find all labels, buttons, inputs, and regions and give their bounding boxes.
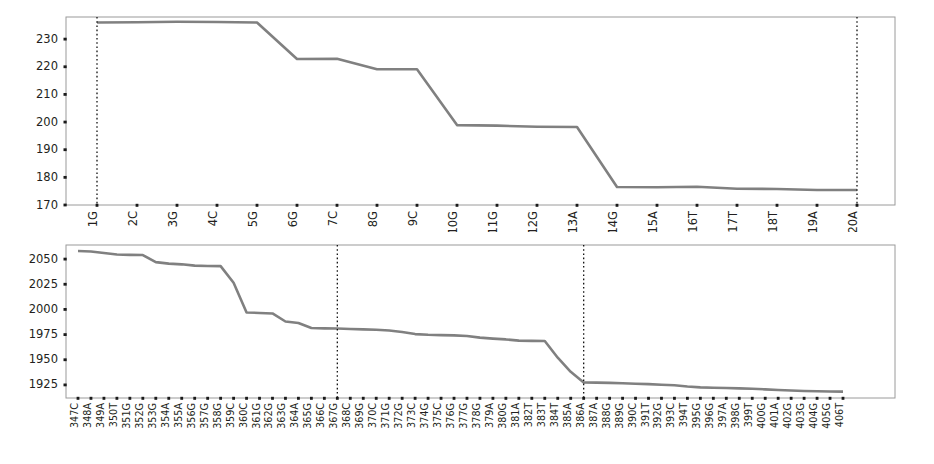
x-tick-label: 18T <box>766 210 780 232</box>
x-tick-mark <box>634 397 637 400</box>
x-tick-label: 348A <box>82 403 93 428</box>
x-tick-mark <box>764 397 767 400</box>
y-tick-mark <box>64 308 67 311</box>
x-tick-mark <box>517 397 520 400</box>
x-tick-mark <box>536 204 539 207</box>
x-tick-label: 363G <box>276 403 287 429</box>
x-tick-mark <box>90 397 93 400</box>
x-tick-mark <box>842 397 845 400</box>
x-tick-label: 374G <box>419 403 430 429</box>
x-tick-label: 376G <box>445 403 456 429</box>
x-tick-label: 356G <box>186 403 197 429</box>
y-tick-label: 2025 <box>29 277 58 291</box>
x-tick-label: 404G <box>808 403 819 429</box>
x-tick-mark <box>660 397 663 400</box>
x-tick-label: 383T <box>536 403 547 427</box>
x-tick-mark <box>176 204 179 207</box>
y-tick-label: 190 <box>36 142 58 156</box>
x-tick-label: 6G <box>286 211 300 227</box>
x-tick-label: 396G <box>704 403 715 429</box>
x-tick-label: 395G <box>691 403 702 429</box>
x-tick-label: 398G <box>730 403 741 429</box>
x-tick-label: 353G <box>147 403 158 429</box>
x-tick-label: 8G <box>366 211 380 227</box>
x-tick-label: 1G <box>86 211 100 227</box>
x-tick-label: 377G <box>458 403 469 429</box>
x-tick-mark <box>401 397 404 400</box>
x-tick-mark <box>496 204 499 207</box>
x-tick-mark <box>790 397 793 400</box>
x-tick-mark <box>336 204 339 207</box>
x-tick-label: 16T <box>686 210 700 232</box>
x-tick-label: 360C <box>238 403 249 428</box>
x-tick-mark <box>375 397 378 400</box>
x-tick-mark <box>647 397 650 400</box>
x-tick-mark <box>466 397 469 400</box>
x-tick-label: 365G <box>302 403 313 429</box>
y-tick-mark <box>64 283 67 286</box>
x-tick-label: 372G <box>393 403 404 429</box>
x-tick-mark <box>297 397 300 400</box>
x-tick-label: 359C <box>225 403 236 428</box>
x-tick-mark <box>256 204 259 207</box>
x-tick-mark <box>595 397 598 400</box>
y-tick-mark <box>64 176 67 179</box>
x-tick-mark <box>738 397 741 400</box>
x-tick-mark <box>456 204 459 207</box>
x-tick-label: 364A <box>289 403 300 428</box>
x-tick-mark <box>556 397 559 400</box>
x-tick-mark <box>696 204 699 207</box>
x-tick-mark <box>725 397 728 400</box>
x-tick-mark <box>479 397 482 400</box>
x-tick-mark <box>656 204 659 207</box>
top-chart-panel: 1701801902002102202301G2C3G4C5G6G7C8G9C1… <box>0 0 934 232</box>
x-tick-mark <box>219 397 222 400</box>
x-tick-mark <box>776 204 779 207</box>
x-tick-mark <box>816 204 819 207</box>
x-tick-label: 387A <box>588 403 599 428</box>
x-tick-label: 371G <box>380 403 391 429</box>
top-chart: 1701801902002102202301G2C3G4C5G6G7C8G9C1… <box>0 0 934 232</box>
x-tick-label: 9C <box>406 211 420 226</box>
x-tick-label: 375C <box>432 403 443 428</box>
y-tick-label: 200 <box>36 115 58 129</box>
x-tick-label: 391T <box>640 403 651 427</box>
x-tick-mark <box>96 204 99 207</box>
x-tick-label: 347C <box>69 403 80 428</box>
y-tick-label: 230 <box>36 32 58 46</box>
x-tick-mark <box>323 397 326 400</box>
x-tick-label: 15A <box>646 211 660 232</box>
x-tick-label: 386A <box>575 403 586 428</box>
y-tick-mark <box>64 358 67 361</box>
x-tick-mark <box>829 397 832 400</box>
x-tick-mark <box>736 204 739 207</box>
x-tick-label: 406T <box>834 403 845 427</box>
y-tick-label: 1950 <box>29 352 58 366</box>
x-tick-mark <box>427 397 430 400</box>
x-tick-mark <box>388 397 391 400</box>
x-tick-mark <box>803 397 806 400</box>
x-tick-mark <box>569 397 572 400</box>
x-tick-label: 11G <box>486 211 500 232</box>
y-tick-label: 210 <box>36 87 58 101</box>
x-tick-label: 20A <box>846 211 860 232</box>
x-tick-label: 399T <box>743 403 754 427</box>
x-tick-mark <box>136 204 139 207</box>
x-tick-label: 351G <box>121 403 132 429</box>
x-tick-mark <box>128 397 131 400</box>
x-tick-label: 13A <box>566 211 580 232</box>
x-tick-mark <box>103 397 106 400</box>
x-tick-mark <box>349 397 352 400</box>
plot-frame <box>66 245 895 398</box>
x-tick-label: 366C <box>315 403 326 428</box>
x-tick-mark <box>621 397 624 400</box>
x-tick-label: 397A <box>717 403 728 428</box>
x-tick-mark <box>232 397 235 400</box>
x-tick-mark <box>193 397 196 400</box>
x-tick-mark <box>284 397 287 400</box>
bottom-chart-panel: 192519501975200020252050347C348A349A350T… <box>0 232 934 464</box>
x-tick-label: 379A <box>484 403 495 428</box>
x-tick-mark <box>856 204 859 207</box>
x-tick-mark <box>271 397 274 400</box>
x-tick-mark <box>530 397 533 400</box>
